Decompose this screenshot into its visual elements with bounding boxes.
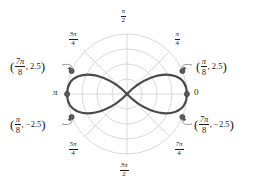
tick-label-3pi-2: 3π 2 bbox=[119, 162, 129, 178]
callout-3-r: −2.5 bbox=[26, 120, 41, 129]
tick-label-7pi-4: 7π 4 bbox=[174, 141, 184, 157]
callout-close-paren-3: ) bbox=[41, 118, 45, 131]
tick-pi-2-denominator: 2 bbox=[121, 17, 127, 25]
callout-close-paren-1: ) bbox=[41, 60, 45, 73]
callout-4-r: −2.5 bbox=[214, 120, 229, 129]
tick-7pi-4-denominator: 4 bbox=[175, 150, 184, 158]
callout-2-theta-den: 8 bbox=[201, 67, 207, 76]
callout-2-r: 2.5 bbox=[212, 62, 223, 71]
callout-2-theta-num: π bbox=[201, 57, 207, 67]
tick-label-5pi-4: 5π 4 bbox=[68, 141, 78, 157]
callout-open-paren-3: ( bbox=[10, 118, 14, 131]
callout-4-theta-den: 8 bbox=[199, 125, 210, 134]
tick-label-zero: 0 bbox=[194, 88, 199, 97]
callout-3-theta-den: 8 bbox=[15, 125, 21, 134]
marker-theta-0 bbox=[184, 91, 189, 96]
tick-pi-4-denominator: 4 bbox=[175, 40, 181, 48]
callout-close-paren-2: ) bbox=[222, 60, 226, 73]
tick-label-pi-2: π 2 bbox=[120, 8, 127, 24]
callout-3-theta-num: π bbox=[15, 115, 21, 125]
callout-pi-8-neg: ( π 8 , −2.5) bbox=[10, 115, 46, 134]
callout-2-comma: , bbox=[208, 62, 210, 71]
callout-open-paren-4: ( bbox=[194, 118, 198, 131]
callout-1-theta-num: 7π bbox=[15, 57, 26, 67]
callout-7pi-8-pos: ( 7π 8 , 2.5) bbox=[10, 57, 45, 76]
callout-pi-8-pos: ( π 8 , 2.5) bbox=[196, 57, 227, 76]
callout-1-theta-den: 8 bbox=[15, 67, 26, 76]
callout-open-paren-2: ( bbox=[196, 60, 200, 73]
callout-7pi-8-neg: ( 7π 8 , −2.5) bbox=[194, 115, 234, 134]
tick-label-pi: π bbox=[53, 88, 58, 97]
polar-lemniscate-figure: π 2 π 4 3π 4 5π 4 7π 4 3π 2 π 0 bbox=[0, 0, 254, 190]
marker-theta-pi bbox=[65, 91, 70, 96]
callout-close-paren-4: ) bbox=[230, 118, 234, 131]
tick-label-3pi-4: 3π 4 bbox=[68, 31, 78, 47]
callout-1-r: 2.5 bbox=[30, 62, 41, 71]
callout-open-paren-1: ( bbox=[10, 60, 14, 73]
callout-3-comma: , bbox=[22, 120, 24, 129]
tick-5pi-4-denominator: 4 bbox=[69, 150, 78, 158]
callout-1-comma: , bbox=[26, 62, 28, 71]
callout-4-comma: , bbox=[210, 120, 212, 129]
callout-4-theta-num: 7π bbox=[199, 115, 210, 125]
tick-label-pi-4: π 4 bbox=[174, 31, 181, 47]
tick-3pi-2-denominator: 2 bbox=[120, 171, 129, 179]
tick-3pi-4-denominator: 4 bbox=[69, 40, 78, 48]
